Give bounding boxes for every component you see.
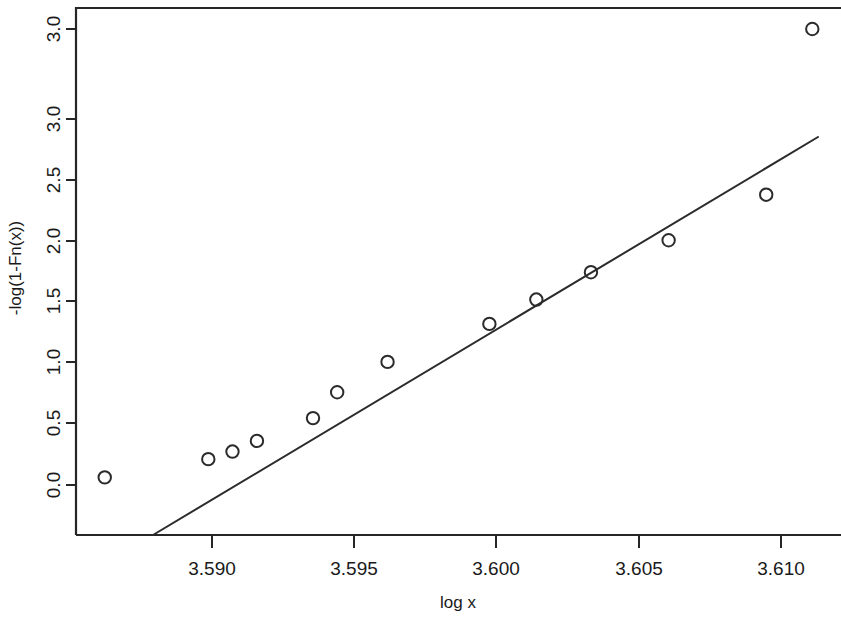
x-tick-label-4: 3.610 (757, 558, 805, 579)
x-axis-title: log x (440, 593, 476, 612)
y-tick-label-5: 2.5 (43, 167, 64, 193)
data-point (202, 453, 214, 465)
y-tick-label-1: 0.5 (43, 410, 64, 436)
y-axis-tick-labels: 0.0 0.5 1.0 1.5 2.0 2.5 3.0 3.0 (43, 16, 64, 498)
x-tick-label-3: 3.605 (615, 558, 663, 579)
data-point (226, 445, 238, 457)
y-tick-label-6: 3.0 (43, 106, 64, 132)
data-points-layer (99, 23, 819, 484)
x-axis-tick-labels: 3.590 3.595 3.600 3.605 3.610 (188, 558, 805, 579)
plot-frame (76, 8, 841, 535)
data-point (483, 318, 495, 330)
x-axis-ticks (212, 535, 781, 548)
data-point (806, 23, 818, 35)
data-point (251, 435, 263, 447)
y-tick-label-4: 2.0 (43, 228, 64, 254)
x-tick-label-1: 3.595 (330, 558, 378, 579)
data-point (760, 188, 772, 200)
data-point (662, 234, 674, 246)
data-point (381, 356, 393, 368)
data-point (99, 471, 111, 483)
plot-canvas: 0.0 0.5 1.0 1.5 2.0 2.5 3.0 3.0 3.590 3.… (0, 0, 841, 619)
y-tick-label-0: 0.0 (43, 472, 64, 498)
x-tick-label-0: 3.590 (188, 558, 236, 579)
y-tick-label-7: 3.0 (43, 16, 64, 42)
y-axis-title: -log(1-Fn(x)) (6, 221, 25, 315)
fitted-line (153, 137, 818, 535)
data-point (331, 386, 343, 398)
y-axis-ticks (66, 29, 76, 485)
x-tick-label-2: 3.600 (472, 558, 520, 579)
y-tick-label-3: 1.5 (43, 288, 64, 314)
frame-top-left (76, 8, 841, 535)
data-point (307, 412, 319, 424)
data-point (530, 293, 542, 305)
y-tick-label-2: 1.0 (43, 349, 64, 375)
scatter-plot-figure: 0.0 0.5 1.0 1.5 2.0 2.5 3.0 3.0 3.590 3.… (0, 0, 841, 619)
